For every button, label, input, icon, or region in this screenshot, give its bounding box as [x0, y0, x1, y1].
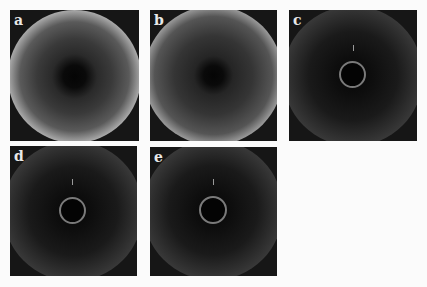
panel-b: b [150, 10, 277, 141]
panel-label-e: e [154, 149, 163, 165]
panel-label-c: c [293, 12, 302, 28]
panel-e: e [150, 147, 277, 276]
panel-label-b: b [154, 12, 164, 28]
panel-label-d: d [14, 148, 24, 164]
halo-ring [150, 10, 277, 141]
beam-stop-mark [213, 179, 214, 185]
beam-stop-mark [72, 179, 73, 185]
panel-d: d [10, 146, 137, 276]
panel-label-a: a [14, 12, 23, 28]
halo-ring [10, 10, 139, 141]
panel-c: c [289, 10, 417, 141]
inner-ring [59, 197, 86, 224]
beam-stop-mark [353, 45, 354, 51]
panel-a: a [10, 10, 139, 141]
inner-ring [199, 196, 227, 224]
inner-ring [339, 61, 366, 88]
